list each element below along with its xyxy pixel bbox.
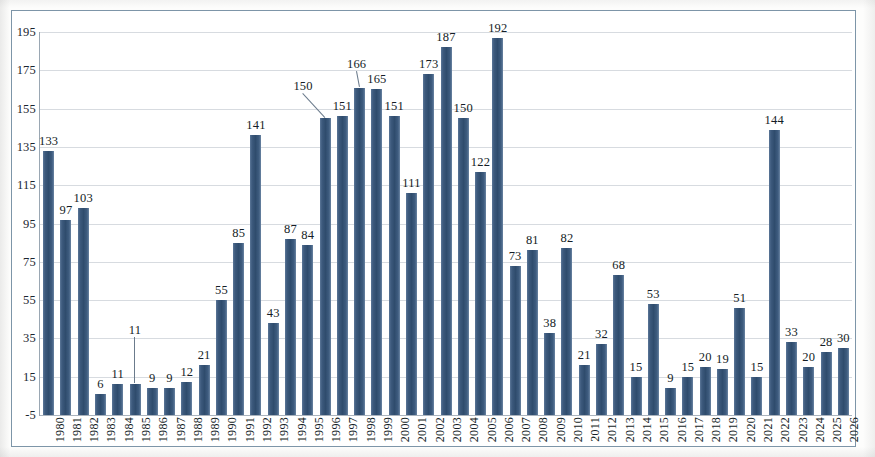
bar[interactable]	[389, 116, 400, 415]
bar[interactable]	[492, 38, 503, 415]
bar[interactable]	[596, 344, 607, 415]
bar[interactable]	[302, 245, 313, 415]
bar[interactable]	[682, 377, 693, 415]
x-axis-tick-label: 2003	[451, 417, 463, 442]
gridline	[40, 415, 852, 416]
bar-value-label: 21	[578, 349, 591, 362]
y-axis-tick-label: 55	[4, 294, 36, 307]
bar[interactable]	[406, 193, 417, 415]
bar[interactable]	[130, 384, 141, 415]
bar[interactable]	[769, 130, 780, 415]
bar[interactable]	[181, 382, 192, 415]
bar-chart: -51535557595115135155175195 133971036111…	[0, 0, 875, 457]
bar[interactable]	[527, 250, 538, 415]
bar[interactable]	[441, 47, 452, 415]
bar[interactable]	[613, 275, 624, 415]
bar[interactable]	[475, 172, 486, 415]
bar-value-label: 12	[180, 366, 193, 379]
label-leader-line	[356, 71, 360, 87]
x-axis-tick-label: 1990	[226, 417, 238, 442]
bar[interactable]	[147, 388, 158, 415]
x-axis-tick-label: 1986	[157, 417, 169, 442]
bar-value-label: 11	[112, 368, 124, 381]
bar[interactable]	[250, 135, 261, 415]
bar[interactable]	[458, 118, 469, 415]
bar-value-label: 150	[293, 80, 312, 93]
bar-value-label: 20	[802, 351, 815, 364]
y-axis-tick-label: 175	[4, 64, 36, 77]
bar[interactable]	[717, 369, 728, 415]
bar[interactable]	[821, 352, 832, 415]
x-axis-tick-label: 1989	[209, 417, 221, 442]
bar[interactable]	[786, 342, 797, 415]
bar[interactable]	[579, 365, 590, 415]
bar-value-label: 68	[612, 259, 625, 272]
x-axis-tick-label: 1987	[175, 417, 187, 442]
bar[interactable]	[95, 394, 106, 415]
bar[interactable]	[233, 243, 244, 415]
x-axis-tick-label: 2000	[399, 417, 411, 442]
bar[interactable]	[112, 384, 123, 415]
x-axis-tick-label: 1995	[313, 417, 325, 442]
bar[interactable]	[700, 367, 711, 415]
bar[interactable]	[838, 348, 849, 415]
bar[interactable]	[199, 365, 210, 415]
bar[interactable]	[354, 88, 365, 415]
bar[interactable]	[544, 333, 555, 415]
bar-value-label: 15	[681, 361, 694, 374]
x-axis-tick-label: 1983	[105, 417, 117, 442]
y-axis-tick-label: 115	[4, 179, 36, 192]
y-axis-tick-label: 155	[4, 102, 36, 115]
bar-value-label: 43	[267, 307, 280, 320]
bar[interactable]	[78, 208, 89, 415]
bar[interactable]	[734, 308, 745, 415]
x-axis-tick-label: 2011	[589, 417, 601, 442]
x-axis-tick-label: 2024	[814, 417, 826, 442]
bar[interactable]	[510, 266, 521, 415]
x-axis-tick-label: 2004	[468, 417, 480, 442]
bar[interactable]	[631, 377, 642, 415]
y-axis-tick-label: 35	[4, 332, 36, 345]
x-axis-tick-label: 1999	[382, 417, 394, 442]
bar-value-label: 38	[543, 317, 556, 330]
x-axis-tick-label: 1984	[123, 417, 135, 442]
bar-value-label: 122	[471, 156, 490, 169]
bar-value-label: 11	[129, 324, 141, 337]
x-axis-tick-label: 1998	[365, 417, 377, 442]
bar-value-label: 15	[630, 361, 643, 374]
x-axis-tick-label: 1994	[296, 417, 308, 442]
x-axis-tick-labels: 1980198119821983198419851986198719881989…	[40, 417, 852, 457]
bar[interactable]	[803, 367, 814, 415]
x-axis-tick-label: 1991	[244, 417, 256, 442]
bar[interactable]	[423, 74, 434, 415]
bar-value-label: 141	[246, 119, 265, 132]
bar-value-label: 150	[454, 102, 473, 115]
bar-value-label: 81	[526, 234, 539, 247]
bar[interactable]	[320, 118, 331, 415]
bar[interactable]	[561, 248, 572, 415]
y-axis-tick-label: 95	[4, 217, 36, 230]
label-leader-line	[134, 337, 135, 383]
x-axis-tick-label: 2014	[641, 417, 653, 442]
bar[interactable]	[60, 220, 71, 415]
bar-value-label: 30	[837, 332, 850, 345]
x-axis-tick-label: 1996	[330, 417, 342, 442]
bar-value-label: 32	[595, 328, 608, 341]
bar[interactable]	[285, 239, 296, 415]
bar-value-label: 82	[560, 232, 573, 245]
x-axis-tick-label: 2015	[658, 417, 670, 442]
bar[interactable]	[43, 151, 54, 415]
bar[interactable]	[216, 300, 227, 415]
bar[interactable]	[665, 388, 676, 415]
bar-value-label: 19	[716, 353, 729, 366]
x-axis-tick-label: 2021	[762, 417, 774, 442]
bar[interactable]	[751, 377, 762, 415]
bar[interactable]	[648, 304, 659, 415]
bar-value-label: 15	[751, 361, 764, 374]
x-axis-tick-label: 2022	[779, 417, 791, 442]
bar[interactable]	[337, 116, 348, 415]
bar[interactable]	[268, 323, 279, 415]
bar-value-label: 9	[149, 372, 155, 385]
bar[interactable]	[164, 388, 175, 415]
bar[interactable]	[371, 89, 382, 415]
